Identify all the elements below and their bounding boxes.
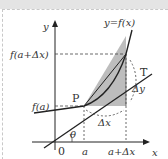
point-label: P	[72, 92, 80, 105]
x-axis-arrow-icon	[143, 139, 150, 145]
theta-label: θ	[70, 129, 76, 140]
derivative-diagram: y x 0 y=f(x) T P f(a+Δx) f(a) a a+Δx Δx …	[0, 0, 168, 159]
y-axis-label: y	[42, 21, 49, 32]
dy-label: Δy	[131, 83, 145, 94]
tangent-label: T	[140, 66, 148, 79]
f-a-dx-label: f(a+Δx)	[9, 49, 49, 60]
x-axis-label: x	[152, 147, 158, 158]
y-axis-arrow-icon	[52, 20, 58, 27]
dy-brace	[130, 60, 136, 102]
a-label: a	[82, 146, 88, 157]
origin-label: 0	[58, 145, 65, 158]
curve-label: y=f(x)	[103, 17, 135, 28]
dx-label: Δx	[97, 117, 111, 128]
f-a-label: f(a)	[31, 101, 50, 112]
a-dx-label: a+Δx	[108, 146, 136, 157]
